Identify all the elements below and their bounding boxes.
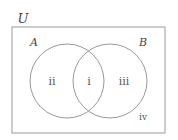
region-iii-label: iii	[119, 75, 130, 88]
set-a-circle	[30, 44, 104, 118]
set-b-circle	[73, 44, 147, 118]
region-iv-label: iv	[139, 112, 148, 122]
universe-label: U	[18, 11, 30, 26]
set-b-label: B	[138, 36, 147, 49]
region-ii-label: ii	[48, 75, 56, 88]
region-i-label: i	[87, 75, 91, 88]
set-a-label: A	[29, 36, 38, 49]
venn-diagram: U A B ii i iii iv	[0, 0, 178, 140]
